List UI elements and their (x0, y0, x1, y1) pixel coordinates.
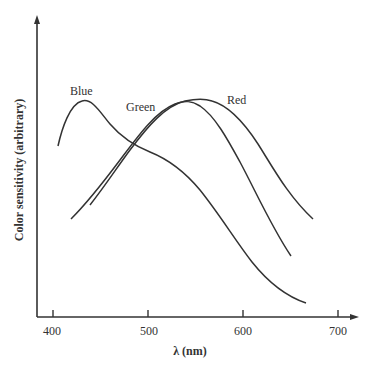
series-label-blue: Blue (70, 84, 93, 99)
y-axis-title: Color sensitivity (arbitrary) (12, 99, 27, 241)
x-tick-label-600: 600 (234, 324, 252, 339)
x-tick-label-700: 700 (329, 324, 347, 339)
series-label-green: Green (126, 100, 155, 115)
y-axis-arrow-icon (34, 15, 40, 24)
series-blue-curve (58, 101, 306, 303)
series-label-red: Red (227, 93, 246, 108)
series-red-curve (90, 99, 313, 219)
x-axis-arrow-icon (350, 314, 359, 320)
x-tick-label-500: 500 (140, 324, 158, 339)
x-axis-title: λ (nm) (173, 344, 207, 359)
series-green-curve (71, 102, 291, 256)
chart-canvas (0, 0, 368, 365)
x-tick-label-400: 400 (43, 324, 61, 339)
